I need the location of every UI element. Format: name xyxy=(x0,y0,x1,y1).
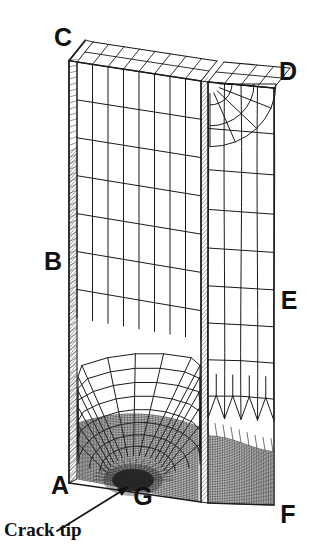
vertex-label-a: A xyxy=(51,471,69,499)
crack-tip-annotation-label: Crack tip xyxy=(4,519,82,540)
fe-mesh-figure: CDBEAFG Crack tip xyxy=(0,0,314,559)
mesh-canvas: CDBEAFG Crack tip xyxy=(0,0,314,559)
vertex-label-f: F xyxy=(280,500,295,528)
vertex-label-e: E xyxy=(281,286,298,314)
vertex-label-b: B xyxy=(44,247,62,275)
vertex-label-d: D xyxy=(279,57,297,85)
vertex-label-g: G xyxy=(133,482,152,510)
vertex-label-c: C xyxy=(54,23,72,51)
